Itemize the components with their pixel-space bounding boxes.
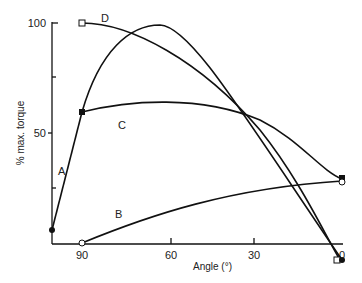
curve-c [82, 102, 342, 179]
marker-b-start [79, 240, 85, 246]
label-c: C [118, 119, 126, 131]
y-tick-100: 100 [28, 17, 46, 29]
curve-d [82, 23, 340, 260]
label-d: D [101, 12, 109, 24]
x-axis-title: Angle (°) [193, 261, 232, 272]
x-tick-30: 30 [248, 249, 260, 261]
marker-a-end [339, 257, 345, 263]
marker-a-start [49, 227, 55, 233]
y-tick-50: 50 [34, 127, 46, 139]
marker-d-start [79, 20, 85, 26]
torque-angle-chart: 100 50 90 60 30 0 Angle (°) % max. torqu… [0, 0, 362, 283]
label-a: A [58, 165, 66, 177]
axes [48, 22, 343, 244]
marker-c-start [79, 109, 85, 115]
label-b: B [115, 208, 122, 220]
y-axis-title: % max. torque [15, 100, 26, 165]
curves [52, 23, 342, 260]
curve-peak [82, 25, 342, 260]
x-tick-60: 60 [165, 249, 177, 261]
chart-canvas: 100 50 90 60 30 0 Angle (°) % max. torqu… [0, 0, 362, 283]
x-tick-90: 90 [76, 249, 88, 261]
marker-b-end [339, 179, 345, 185]
curve-a [52, 112, 82, 230]
